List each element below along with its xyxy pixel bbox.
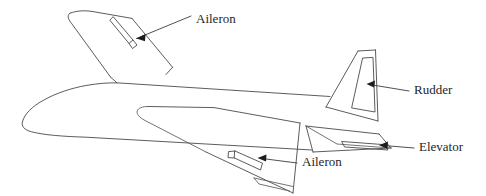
far-aileron-hinge	[129, 40, 137, 49]
diagram-canvas: Aileron Rudder Elevator Aileron	[0, 0, 486, 196]
far-aileron-outline	[110, 17, 133, 43]
callout-aileron-near: Aileron	[258, 154, 343, 169]
aileron-far-label: Aileron	[196, 11, 236, 26]
rudder-label: Rudder	[414, 82, 453, 97]
aircraft-control-surfaces-diagram: Aileron Rudder Elevator Aileron	[0, 0, 486, 196]
near-wing	[148, 107, 300, 194]
far-wing-tip	[68, 13, 110, 77]
aileron-near-arrowhead	[258, 154, 267, 161]
vstab-tip-chord	[358, 50, 376, 51]
fuselage-upper-contour	[23, 83, 331, 122]
callout-elevator: Elevator	[379, 139, 464, 154]
near-wing-tip-chord	[293, 123, 300, 193]
far-wing-root-chord	[111, 77, 118, 83]
near-wing-tip-fairing-inner	[254, 178, 293, 187]
far-wing-aileron-surface	[110, 17, 137, 49]
far-wing-root-rear	[166, 67, 173, 74]
vstab-root-chord	[326, 107, 378, 121]
near-wing-aileron-surface	[228, 151, 263, 170]
callout-aileron-far: Aileron	[137, 11, 237, 41]
fuselage-lower-contour	[22, 122, 312, 151]
aileron-near-leader-line	[262, 159, 297, 164]
far-wing-leading-edge	[70, 11, 132, 19]
hstab-root-fairing	[306, 126, 391, 148]
vstab-leading-edge	[326, 51, 358, 107]
near-aileron-hinge	[228, 151, 235, 158]
near-wing-leading-edge	[148, 107, 300, 124]
horizontal-stabilizer	[306, 126, 391, 152]
aileron-near-label: Aileron	[302, 154, 342, 169]
fuselage	[22, 83, 330, 152]
elevator-label: Elevator	[419, 139, 464, 154]
callout-rudder: Rudder	[367, 81, 453, 97]
far-wing	[68, 11, 173, 83]
rudder-arrowhead	[367, 81, 376, 88]
fuselage-wingroot-notch	[137, 107, 206, 153]
near-wing-trailing-edge	[206, 152, 293, 193]
rudder-leader-line	[370, 85, 410, 92]
hstab-trailing-edge	[313, 148, 391, 152]
